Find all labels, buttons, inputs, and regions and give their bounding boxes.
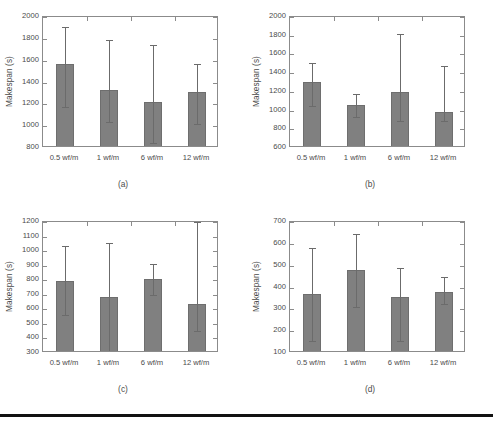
x-tick-mark (378, 222, 379, 226)
error-bar-cap-upper (194, 222, 201, 223)
y-tick-mark (460, 244, 464, 245)
y-axis-tick-labels: 300400500600700800900100011001200 (5, 205, 39, 372)
error-bar-cap-upper (106, 40, 113, 41)
y-tick-label: 100 (252, 348, 286, 356)
y-tick-mark (460, 17, 464, 18)
x-tick-label: 6 wf/m (388, 359, 410, 367)
y-tick-mark (43, 237, 47, 238)
y-tick-mark (290, 309, 294, 310)
y-tick-label: 1600 (252, 50, 286, 58)
plot-area (289, 16, 465, 147)
error-bar-cap-upper (150, 264, 157, 265)
error-bar-line (400, 268, 401, 341)
y-tick-mark (460, 36, 464, 37)
error-bar-line (197, 64, 198, 124)
error-bar-line (65, 246, 66, 314)
y-tick-label: 1000 (5, 246, 39, 254)
x-axis-tick-labels: 0.5 wf/m1 wf/m6 wf/m12 wf/m (42, 154, 218, 166)
y-tick-mark (43, 126, 47, 127)
error-bar-line (153, 264, 154, 295)
y-tick-label: 200 (252, 326, 286, 334)
y-tick-label: 600 (5, 305, 39, 313)
x-tick-label: 1 wf/m (344, 154, 366, 162)
y-axis-tick-labels: 100200300400500600700 (252, 205, 286, 372)
y-tick-label: 1100 (5, 232, 39, 240)
y-tick-mark (213, 338, 217, 339)
error-bar-line (109, 40, 110, 122)
error-bar-line (153, 45, 154, 143)
y-tick-mark (43, 309, 47, 310)
page-bottom-rule (0, 414, 493, 417)
y-tick-mark (290, 244, 294, 245)
error-bar-cap-lower (150, 295, 157, 296)
x-tick-label: 6 wf/m (388, 154, 410, 162)
y-tick-mark (213, 39, 217, 40)
error-bar-cap-upper (194, 64, 201, 65)
y-tick-label: 300 (252, 305, 286, 313)
x-tick-mark (378, 17, 379, 21)
y-tick-mark (213, 104, 217, 105)
error-bar-line (356, 94, 357, 117)
panel-caption: (a) (0, 179, 246, 189)
y-tick-label: 400 (252, 283, 286, 291)
y-tick-mark (43, 295, 47, 296)
y-tick-mark (213, 266, 217, 267)
x-tick-label: 12 wf/m (183, 359, 210, 367)
error-bar-cap-lower (353, 117, 360, 118)
error-bar-line (109, 243, 110, 351)
x-tick-label: 0.5 wf/m (50, 359, 79, 367)
y-tick-label: 500 (5, 319, 39, 327)
y-tick-mark (290, 36, 294, 37)
y-axis-tick-labels: 600800100012001400160018002000 (252, 0, 286, 167)
y-tick-mark (213, 280, 217, 281)
x-tick-mark (87, 17, 88, 21)
error-bar-cap-upper (106, 243, 113, 244)
error-bar-line (197, 222, 198, 331)
panel-caption: (b) (247, 179, 493, 189)
error-bar-cap-upper (309, 63, 316, 64)
x-tick-label: 12 wf/m (430, 154, 457, 162)
x-tick-label: 6 wf/m (141, 359, 163, 367)
y-tick-mark (460, 111, 464, 112)
y-tick-label: 1800 (252, 31, 286, 39)
error-bar-cap-lower (106, 122, 113, 123)
error-bar-cap-lower (194, 124, 201, 125)
y-tick-mark (43, 251, 47, 252)
y-tick-label: 2000 (252, 12, 286, 20)
error-bar-cap-upper (309, 248, 316, 249)
error-bar-cap-lower (194, 331, 201, 332)
y-tick-mark (460, 129, 464, 130)
chart-panel-d: Makespan (s)1002003004005006007000.5 wf/… (247, 205, 493, 410)
x-tick-label: 0.5 wf/m (297, 359, 326, 367)
x-tick-label: 0.5 wf/m (297, 154, 326, 162)
x-tick-label: 0.5 wf/m (50, 154, 79, 162)
y-tick-label: 800 (252, 124, 286, 132)
error-bar-cap-lower (62, 315, 69, 316)
y-tick-mark (290, 222, 294, 223)
x-tick-mark (175, 17, 176, 21)
x-tick-mark (422, 222, 423, 226)
y-tick-label: 800 (5, 143, 39, 151)
y-tick-mark (213, 61, 217, 62)
x-axis-tick-labels: 0.5 wf/m1 wf/m6 wf/m12 wf/m (289, 359, 465, 371)
error-bar-cap-upper (441, 277, 448, 278)
y-tick-label: 900 (5, 261, 39, 269)
error-bar-cap-upper (397, 34, 404, 35)
y-tick-mark (43, 61, 47, 62)
y-tick-label: 1200 (5, 217, 39, 225)
y-tick-mark (290, 17, 294, 18)
y-tick-mark (213, 295, 217, 296)
y-tick-mark (460, 92, 464, 93)
y-tick-label: 1000 (5, 121, 39, 129)
error-bar-cap-lower (62, 107, 69, 108)
y-tick-mark (460, 266, 464, 267)
error-bar-cap-lower (150, 143, 157, 144)
y-tick-mark (43, 280, 47, 281)
error-bar-cap-lower (397, 121, 404, 122)
error-bar-line (65, 27, 66, 107)
x-axis-tick-labels: 0.5 wf/m1 wf/m6 wf/m12 wf/m (289, 154, 465, 166)
error-bar-line (312, 63, 313, 106)
x-tick-mark (131, 17, 132, 21)
y-tick-mark (460, 331, 464, 332)
y-tick-label: 2000 (5, 12, 39, 20)
